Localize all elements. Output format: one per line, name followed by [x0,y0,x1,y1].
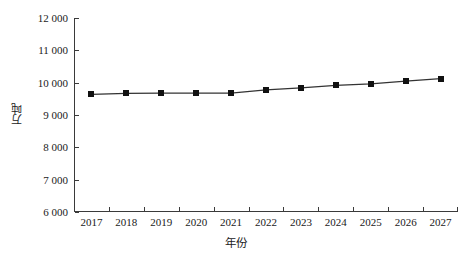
data-point-marker [88,91,94,97]
x-axis-tick-label: 2018 [115,216,137,228]
x-axis-tick-label: 2023 [290,216,312,228]
plot-area: 6 0007 0008 0009 00010 00011 00012 000 2… [74,18,458,212]
data-point-marker [123,90,129,96]
data-point-marker [228,90,234,96]
y-axis-title: 万吨 [6,84,28,144]
y-axis-tick-label: 10 000 [38,77,68,89]
y-axis-tick-label: 9 000 [43,109,68,121]
x-axis-tick-label: 2025 [360,216,382,228]
data-point-marker [193,90,199,96]
y-axis-tick-label: 8 000 [43,141,68,153]
y-axis-tick-label: 6 000 [43,206,68,218]
data-point-marker [403,78,409,84]
y-axis-tick [75,212,79,213]
x-axis-title: 年份 [0,234,471,250]
chart-figure: 万吨 6 0007 0008 0009 00010 00011 00012 00… [0,0,471,259]
y-axis-tick-label: 11 000 [38,44,68,56]
x-axis-tick-label: 2022 [255,216,277,228]
x-axis-tick-label: 2019 [150,216,172,228]
x-axis-tick-label: 2017 [80,216,102,228]
x-axis-tick-label: 2026 [395,216,417,228]
data-point-marker [158,90,164,96]
data-point-marker [368,81,374,87]
data-point-marker [438,76,444,82]
y-axis-tick-label: 7 000 [43,174,68,186]
x-axis-tick-label: 2021 [220,216,242,228]
data-point-marker [263,87,269,93]
x-axis-tick-label: 2024 [325,216,347,228]
data-point-marker [298,85,304,91]
x-axis-tick-label: 2020 [185,216,207,228]
y-axis-tick-label: 12 000 [38,12,68,24]
series-line [74,18,458,212]
x-axis-tick-label: 2027 [430,216,452,228]
data-point-marker [333,82,339,88]
